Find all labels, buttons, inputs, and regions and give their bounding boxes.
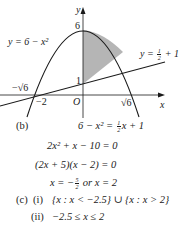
part-b-line4: x = −52 or x = 2	[50, 177, 117, 190]
origin-label: O	[73, 97, 80, 107]
b-line4-fraction: 52	[75, 177, 79, 190]
y-axis-label: y	[76, 5, 80, 15]
part-c-i-label: (i)	[33, 195, 43, 206]
b-line1-fraction: 12	[117, 120, 121, 133]
line-label-prefix: y =	[140, 48, 156, 59]
part-c-ii-label: (ii)	[31, 212, 44, 223]
tick-label-neg2: −2	[36, 97, 47, 107]
x-axis-label: x	[160, 100, 164, 110]
line-label-fraction: 12	[157, 48, 161, 61]
graph: y x O 6 1 −√6 −2 √6 y = 6 − x² y = 12 + …	[0, 0, 196, 118]
tick-label-neg-sqrt6: −√6	[12, 83, 28, 93]
part-b-line2: 2x² + x − 10 = 0	[47, 141, 117, 152]
part-c-label: (c)	[16, 195, 28, 206]
tick-label-sqrt6: √6	[121, 98, 132, 108]
fraction-denominator: 2	[75, 184, 79, 190]
curve-label: y = 6 − x²	[8, 37, 48, 47]
x-axis-arrow-icon	[158, 93, 165, 98]
part-b-label: (b)	[16, 121, 28, 132]
fraction-denominator: 2	[157, 55, 161, 61]
fraction-numerator: 5	[75, 177, 79, 184]
part-b-line3: (2x + 5)(x − 2) = 0	[35, 160, 116, 171]
part-c-ii-answer: −2.5 ≤ x ≤ 2	[52, 212, 104, 223]
line-label: y = 12 + 1	[140, 48, 179, 61]
tick-label-y1: 1	[76, 76, 81, 86]
fraction-numerator: 1	[117, 120, 121, 127]
shaded-region	[83, 30, 123, 84]
b-line1-right: x + 1	[122, 120, 144, 131]
b-line4-left: x = −	[50, 177, 74, 188]
b-line1-left: 6 − x² =	[78, 120, 116, 131]
fraction-numerator: 1	[157, 48, 161, 55]
part-c-i-answer: {x : x < −2.5} ∪ {x : x > 2}	[52, 195, 169, 206]
part-b-line1: 6 − x² = 12x + 1	[78, 120, 144, 133]
y-axis-arrow-icon	[81, 7, 86, 14]
tick-label-y6: 6	[75, 21, 80, 31]
b-line4-right: or x = 2	[80, 177, 117, 188]
fraction-denominator: 2	[117, 127, 121, 133]
line-label-suffix: + 1	[162, 48, 179, 59]
